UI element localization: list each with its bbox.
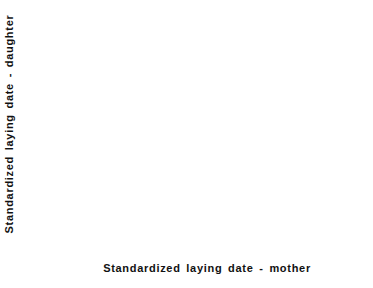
x-axis-title: Standardized laying date - mother	[55, 262, 359, 274]
scatter-plot-figure: Standardized laying date - daughter Stan…	[0, 0, 373, 288]
y-axis-title: Standardized laying date - daughter	[3, 14, 19, 234]
chart-canvas	[0, 0, 373, 288]
